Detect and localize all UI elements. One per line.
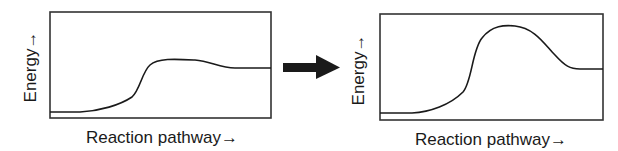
plot-frame xyxy=(50,12,271,118)
energy-curve xyxy=(50,59,271,112)
energy-curve xyxy=(380,26,603,113)
x-axis-label: Reaction pathway→ xyxy=(415,130,567,149)
diagram-canvas: Energy→ Reaction pathway→ Energy→ Reacti… xyxy=(0,0,618,151)
transition-arrow-icon xyxy=(283,55,340,79)
y-axis-label: Energy→ xyxy=(21,32,40,103)
energy-diagram-before: Energy→ Reaction pathway→ xyxy=(21,12,271,147)
x-axis-label: Reaction pathway→ xyxy=(86,128,238,147)
energy-diagram-after: Energy→ Reaction pathway→ xyxy=(349,14,603,149)
y-axis-label: Energy→ xyxy=(349,35,368,106)
